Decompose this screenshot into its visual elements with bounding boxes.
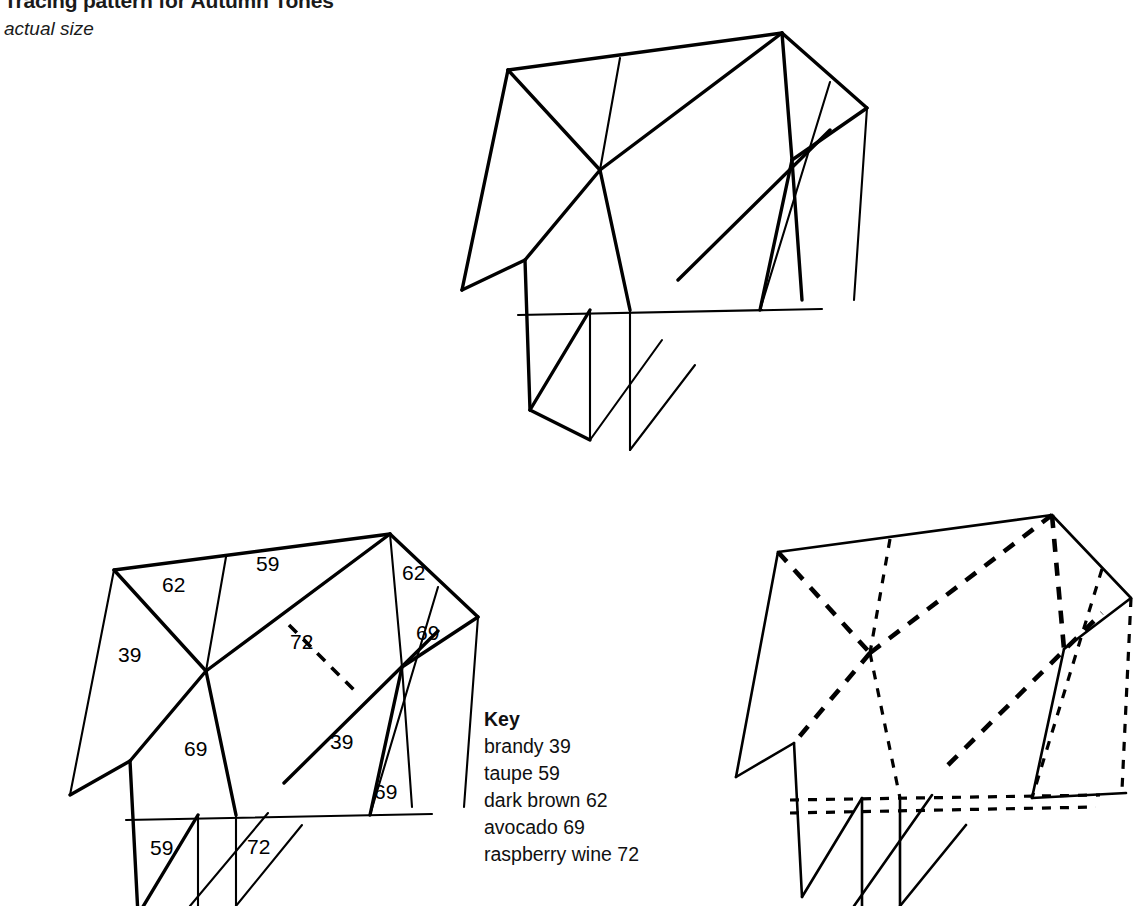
outline-heavy-strokes [462, 33, 867, 440]
piece-number-69-right: 69 [416, 621, 439, 645]
key-entry-avocado: avocado 69 [484, 814, 694, 841]
piece-number-72-leg: 72 [247, 835, 270, 859]
piece-number-62-top-right: 62 [402, 561, 425, 585]
page-subtitle: actual size [4, 18, 94, 40]
tracing-pattern-outline-diagram [430, 10, 910, 480]
piece-number-39-lower: 39 [330, 730, 353, 754]
piece-number-69-lower-right: 69 [374, 780, 397, 804]
numbered-colour-placement-diagram: 62 59 62 39 72 69 69 39 69 59 72 [40, 495, 510, 906]
piece-number-59-top: 59 [256, 552, 279, 576]
piece-number-59-leg: 59 [150, 836, 173, 860]
placement-heavy-strokes [70, 534, 478, 906]
piece-number-39-left: 39 [118, 643, 141, 667]
stitching-line-diagram [730, 495, 1139, 906]
stitch-dashed-fine [790, 539, 1131, 813]
key-entry-raspberry-wine: raspberry wine 72 [484, 841, 694, 868]
key-entry-taupe: taupe 59 [484, 760, 694, 787]
outline-fine-strokes [518, 58, 867, 450]
piece-number-62-top-left: 62 [162, 573, 185, 597]
page-title: Tracing pattern for Autumn Tones [4, 0, 334, 13]
colour-key: Key brandy 39 taupe 59 dark brown 62 avo… [484, 706, 694, 868]
pattern-page: Tracing pattern for Autumn Tones actual … [0, 0, 1139, 906]
piece-number-69-middle: 69 [184, 737, 207, 761]
key-heading: Key [484, 706, 694, 733]
piece-number-72-centre: 72 [290, 630, 313, 654]
key-entry-brandy: brandy 39 [484, 733, 694, 760]
key-entry-dark-brown: dark brown 62 [484, 787, 694, 814]
